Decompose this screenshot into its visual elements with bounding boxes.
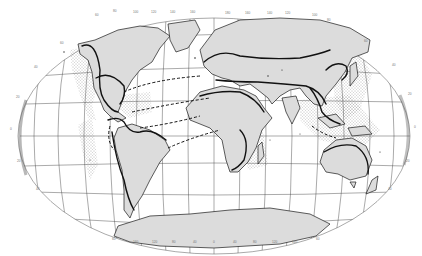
south-america (114, 124, 170, 218)
label-right-4: 20 (406, 159, 410, 163)
label-top-10: 100 (312, 13, 318, 17)
label-bottom-4: 40 (193, 240, 197, 244)
greenland (168, 20, 200, 52)
label-bottom-8: 120 (272, 240, 278, 244)
label-bottom-3: 80 (172, 240, 176, 244)
label-right-0: 60 (364, 39, 368, 43)
label-top-6: 180 (225, 11, 231, 15)
label-bottom-2: 120 (152, 240, 158, 244)
label-top-8: 140 (267, 11, 273, 15)
world-map: 60 80 100 120 140 160 180 160 140 120 10… (0, 0, 422, 256)
label-right-3: 0 (414, 125, 416, 129)
label-top-4: 140 (170, 10, 176, 14)
label-left-2: 20 (16, 95, 20, 99)
label-right-1: 40 (392, 63, 396, 67)
label-bottom-5: 0 (213, 240, 215, 244)
label-top-5: 160 (190, 10, 196, 14)
label-left-5: 40 (36, 187, 40, 191)
label-bottom-10: 60 (316, 237, 320, 241)
label-bottom-9: 160 (292, 240, 298, 244)
label-bottom-6: 40 (233, 240, 237, 244)
india (282, 96, 300, 124)
tasmania (350, 182, 356, 188)
label-top-9: 120 (285, 11, 291, 15)
label-bottom-1: 160 (133, 240, 139, 244)
label-bottom-0: 60 (112, 237, 116, 241)
label-left-3: 0 (10, 127, 12, 131)
label-right-2: 20 (408, 92, 412, 96)
label-right-5: 40 (388, 187, 392, 191)
label-left-4: 20 (17, 159, 21, 163)
label-top-0: 60 (95, 13, 99, 17)
label-top-7: 160 (245, 11, 251, 15)
label-left-0: 60 (60, 41, 64, 45)
label-top-1: 80 (113, 9, 117, 13)
label-top-2: 100 (133, 10, 139, 14)
label-top-3: 120 (151, 10, 157, 14)
label-bottom-7: 80 (253, 240, 257, 244)
label-left-1: 40 (34, 65, 38, 69)
label-top-11: 80 (327, 18, 331, 22)
antarctica (114, 208, 330, 248)
